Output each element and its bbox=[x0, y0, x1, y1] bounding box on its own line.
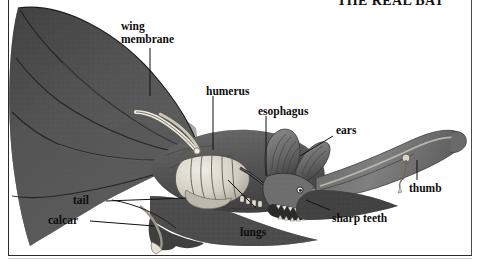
label-esophagus: esophagus bbox=[258, 105, 309, 118]
label-ears: ears bbox=[336, 124, 356, 137]
label-wing-membrane: wing membrane bbox=[121, 20, 174, 46]
label-thumb: thumb bbox=[409, 182, 442, 195]
frame-right-rule bbox=[471, 0, 472, 256]
label-tail: tail bbox=[73, 194, 89, 207]
figure-page: THE REAL BAT wing membrane humerus esoph… bbox=[0, 0, 481, 268]
label-humerus: humerus bbox=[206, 85, 249, 98]
label-calcar: calcar bbox=[48, 214, 78, 227]
frame-left-rule bbox=[8, 0, 9, 256]
frame-bottom-rule-secondary bbox=[8, 258, 472, 259]
page-title: THE REAL BAT bbox=[337, 0, 444, 9]
label-sharp-teeth: sharp teeth bbox=[332, 212, 387, 225]
label-lungs: lungs bbox=[240, 226, 266, 239]
frame-bottom-rule bbox=[8, 255, 472, 256]
